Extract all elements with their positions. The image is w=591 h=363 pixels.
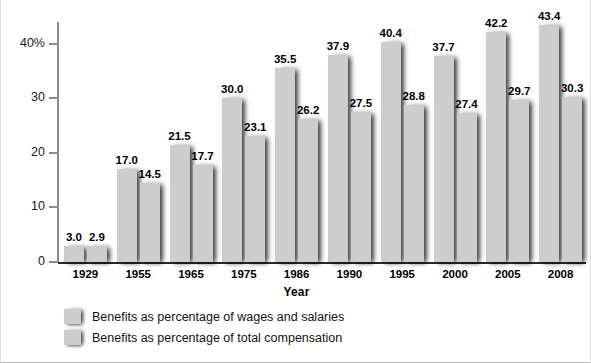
- x-tick-label: 2005: [478, 268, 538, 280]
- bar[interactable]: 37.7: [434, 56, 454, 262]
- bar-group: 43.430.3: [539, 22, 582, 262]
- bar-value-label: 27.4: [455, 98, 477, 110]
- bar-value-label: 17.7: [191, 150, 213, 162]
- x-tick-label: 1995: [372, 268, 432, 280]
- bar-value-label: 21.5: [168, 130, 190, 142]
- bar[interactable]: 30.0: [222, 98, 242, 262]
- bar[interactable]: 30.3: [562, 97, 582, 262]
- x-axis-title: Year: [1, 285, 591, 299]
- bar[interactable]: 35.5: [275, 68, 295, 262]
- bar-group: 37.727.4: [434, 22, 477, 262]
- plot-area: 3.02.917.014.521.517.730.023.135.526.237…: [58, 22, 586, 262]
- bar-group: 17.014.5: [117, 22, 160, 262]
- bar-group: 35.526.2: [275, 22, 318, 262]
- x-tick-label: 1955: [108, 268, 168, 280]
- bar[interactable]: 27.5: [351, 112, 371, 262]
- bar-value-label: 23.1: [244, 121, 266, 133]
- bar[interactable]: 40.4: [381, 42, 401, 262]
- bar[interactable]: 37.9: [328, 55, 348, 262]
- y-tick-mark: [49, 43, 58, 45]
- bar[interactable]: 42.2: [486, 32, 506, 262]
- y-tick-label: 10: [31, 198, 45, 215]
- bar[interactable]: 17.0: [117, 169, 137, 262]
- x-tick-label: 1975: [214, 268, 274, 280]
- legend-swatch: [64, 309, 81, 324]
- y-tick-label: 0: [38, 253, 45, 270]
- bar-value-label: 29.7: [508, 85, 530, 97]
- bar-group: 40.428.8: [381, 22, 424, 262]
- clipped-title-remnant: [1, 0, 591, 3]
- bar[interactable]: 14.5: [140, 183, 160, 262]
- bar[interactable]: 29.7: [509, 100, 529, 262]
- bar-value-label: 14.5: [138, 168, 160, 180]
- bar-group: 3.02.9: [64, 22, 107, 262]
- bar-value-label: 30.3: [561, 82, 583, 94]
- bar[interactable]: 27.4: [457, 113, 477, 262]
- x-tick-label: 2000: [425, 268, 485, 280]
- bar-chart-figure: Percentage Year 010203040% 3.02.917.014.…: [0, 0, 591, 363]
- chart-legend: Benefits as percentage of wages and sala…: [64, 306, 344, 348]
- bar[interactable]: 28.8: [404, 105, 424, 262]
- y-tick-label: 20: [31, 144, 45, 161]
- y-tick-label: 40%: [20, 35, 45, 52]
- bar-value-label: 27.5: [350, 97, 372, 109]
- legend-item[interactable]: Benefits as percentage of wages and sala…: [64, 306, 344, 327]
- x-tick-label: 1990: [319, 268, 379, 280]
- y-tick-mark: [49, 97, 58, 99]
- bar-value-label: 37.9: [327, 40, 349, 52]
- bar[interactable]: 21.5: [170, 145, 190, 262]
- x-tick-label: 1929: [55, 268, 115, 280]
- bar-value-label: 40.4: [379, 27, 401, 39]
- bar[interactable]: 17.7: [193, 165, 213, 262]
- y-tick-mark: [49, 152, 58, 154]
- x-tick-label: 1965: [161, 268, 221, 280]
- bar-group: 42.229.7: [486, 22, 529, 262]
- bar-value-label: 17.0: [115, 154, 137, 166]
- bar-group: 30.023.1: [222, 22, 265, 262]
- y-tick-mark: [49, 206, 58, 208]
- legend-swatch: [64, 330, 81, 345]
- bar-value-label: 42.2: [485, 17, 507, 29]
- y-tick-label: 30: [31, 89, 45, 106]
- bar-value-label: 3.0: [66, 231, 82, 243]
- bar[interactable]: 26.2: [298, 119, 318, 262]
- bar-value-label: 2.9: [89, 231, 105, 243]
- bar[interactable]: 43.4: [539, 25, 559, 262]
- bar-value-label: 35.5: [274, 53, 296, 65]
- bar-group: 37.927.5: [328, 22, 371, 262]
- y-tick-mark: [49, 261, 58, 263]
- bar-value-label: 43.4: [538, 10, 560, 22]
- x-tick-label: 1986: [267, 268, 327, 280]
- bar-group: 21.517.7: [170, 22, 213, 262]
- bar-value-label: 37.7: [432, 41, 454, 53]
- x-tick-label: 2008: [531, 268, 591, 280]
- bar-value-label: 26.2: [297, 104, 319, 116]
- bar[interactable]: 23.1: [245, 136, 265, 262]
- bar[interactable]: 2.9: [87, 246, 107, 262]
- legend-label: Benefits as percentage of wages and sala…: [92, 310, 344, 324]
- legend-label: Benefits as percentage of total compensa…: [92, 331, 342, 345]
- x-axis-line: [58, 262, 586, 264]
- legend-item[interactable]: Benefits as percentage of total compensa…: [64, 327, 344, 348]
- bar-value-label: 28.8: [402, 90, 424, 102]
- bar[interactable]: 3.0: [64, 246, 84, 262]
- bar-value-label: 30.0: [221, 83, 243, 95]
